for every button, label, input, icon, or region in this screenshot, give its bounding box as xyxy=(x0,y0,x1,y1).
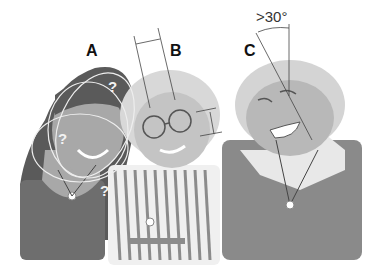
three-women-illustration xyxy=(0,0,379,279)
question-mark: ? xyxy=(100,182,109,199)
angle-annotation: >30° xyxy=(256,8,287,25)
woman-c xyxy=(222,60,362,260)
label-b: B xyxy=(170,42,182,60)
question-mark: ? xyxy=(58,130,67,147)
label-c: C xyxy=(244,42,256,60)
illustration-canvas: A B C >30° ? ? ? xyxy=(0,0,379,279)
woman-b xyxy=(108,70,220,265)
label-a: A xyxy=(86,42,98,60)
question-mark: ? xyxy=(108,78,117,95)
